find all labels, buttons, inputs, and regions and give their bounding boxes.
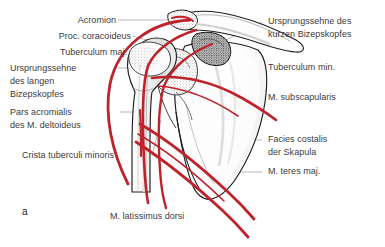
label-facies-costalis-line1: Facies costalis: [268, 134, 380, 145]
label-acromion: Acromion: [0, 15, 116, 26]
label-m-teres-maj: M. teres maj.: [268, 166, 380, 177]
label-tuberculum-min: Tuberculum min.: [268, 62, 380, 73]
label-facies-costalis-line2: der Skapula: [268, 147, 380, 158]
label-ursprungssehne-langen-bizepskopfes-line2: des langen: [10, 76, 122, 87]
label-pars-acromialis-line2: des M. deltoideus: [10, 120, 128, 131]
label-tuberculum-maj: Tuberculum maj.: [0, 47, 127, 58]
label-m-latissimus-dorsi: M. latissimus dorsi: [110, 211, 218, 222]
label-crista-tuberculi-minoris: Crista tuberculi minoris: [22, 150, 152, 161]
figure-letter: a: [22, 206, 28, 217]
label-ursprungssehne-kurzen-bizepskopfes-line1: Ursprungssehne des: [268, 16, 384, 27]
label-ursprungssehne-langen-bizepskopfes-line3: Bizepskopfes: [10, 89, 122, 100]
label-m-subscapularis: M. subscapularis: [268, 92, 380, 103]
label-pars-acromialis-line1: Pars acromialis: [10, 107, 122, 118]
anatomy-figure: Acromion Proc. coracoideus Tuberculum ma…: [0, 0, 385, 247]
label-ursprungssehne-langen-bizepskopfes-line1: Ursprungssehne: [10, 63, 122, 74]
label-proc-coracoideus: Proc. coracoideus: [0, 31, 131, 42]
label-ursprungssehne-kurzen-bizepskopfes-line2: kurzen Bizepskopfes: [268, 29, 384, 40]
